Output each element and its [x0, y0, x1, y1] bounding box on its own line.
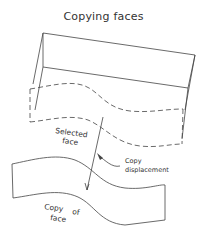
- copy-of-face-label-line1: Copy: [44, 202, 65, 214]
- copy-of-face-label-line3: face: [50, 213, 67, 224]
- displacement-arrow: [85, 117, 103, 190]
- copy-displacement-label-line1: Copy: [125, 157, 142, 165]
- selected-face-label-line2: face: [62, 136, 79, 147]
- solid-box: [33, 33, 195, 139]
- selected-face-outline: [30, 83, 183, 146]
- copy-of-face-label-line2: of: [72, 207, 81, 217]
- copy-displacement-label-line2: displacement: [125, 166, 169, 174]
- copy-displacement-leader: [97, 153, 120, 166]
- copy-faces-diagram: Selected face Copy displacement Copy of …: [0, 0, 207, 227]
